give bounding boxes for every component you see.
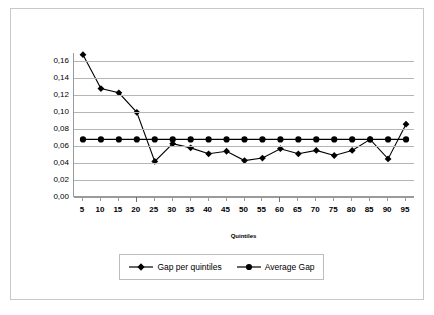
x-axis-tick: [136, 197, 137, 202]
circle-marker-icon: [236, 262, 262, 272]
x-axis-tick: [190, 197, 191, 201]
x-axis-tick: [369, 197, 370, 201]
x-axis-tick-label: 80: [347, 205, 356, 215]
chart-legend: Gap per quintiles Average Gap: [119, 254, 324, 280]
data-point-circle: [80, 136, 86, 142]
plot-area: [73, 53, 414, 197]
x-axis-tick-label: 45: [221, 205, 230, 215]
x-axis-tick: [100, 197, 101, 201]
x-axis-ticks: [73, 197, 414, 202]
data-point-diamond: [349, 147, 356, 154]
x-axis-tick-label: 25: [149, 205, 158, 215]
gridline: [74, 112, 414, 113]
gridline: [74, 95, 414, 96]
x-axis-tick: [244, 197, 245, 201]
gridline: [74, 78, 414, 79]
gridline: [74, 163, 414, 164]
chart-figure: 0,000,020,040,060,080,100,120,140,16 510…: [10, 8, 424, 300]
x-axis-tick-label: 15: [113, 205, 122, 215]
data-point-circle: [313, 136, 319, 142]
x-axis-tick-label: 75: [329, 205, 338, 215]
x-axis-tick-label: 60: [275, 205, 284, 215]
data-point-diamond: [205, 150, 212, 157]
x-axis-tick: [297, 197, 298, 201]
data-point-circle: [259, 136, 265, 142]
data-point-circle: [349, 136, 355, 142]
data-point-diamond: [313, 147, 320, 154]
x-axis-tick: [351, 197, 352, 201]
x-axis-tick-label: 50: [239, 205, 248, 215]
x-axis-tick: [82, 197, 83, 201]
data-point-circle: [403, 136, 409, 142]
gridline: [74, 129, 414, 130]
x-axis-tick: [333, 197, 334, 201]
x-axis-tick: [118, 197, 119, 201]
x-axis-tick: [226, 197, 227, 201]
legend-item-average-gap[interactable]: Average Gap: [236, 262, 315, 272]
data-point-diamond: [80, 51, 87, 58]
data-point-circle: [152, 136, 158, 142]
data-point-circle: [277, 136, 283, 142]
data-point-circle: [367, 136, 373, 142]
y-axis-tick-labels: 0,000,020,040,060,080,100,120,140,16: [31, 53, 69, 197]
data-point-circle: [188, 136, 194, 142]
data-point-circle: [295, 136, 301, 142]
series-layer: [74, 53, 415, 197]
gridline: [74, 146, 414, 147]
data-point-circle: [331, 136, 337, 142]
x-axis-tick-label: 10: [95, 205, 104, 215]
data-point-circle: [170, 136, 176, 142]
data-point-diamond: [295, 150, 302, 157]
x-axis-tick-label: 85: [365, 205, 374, 215]
x-axis-tick: [261, 197, 262, 201]
y-axis-tick-label: 0,02: [53, 176, 69, 184]
x-axis-tick-label: 95: [401, 205, 410, 215]
data-point-circle: [223, 136, 229, 142]
data-point-diamond: [223, 148, 230, 155]
x-axis-tick-labels: 5101520253035404550556065707580859095: [73, 205, 414, 219]
y-axis-tick-label: 0,04: [53, 159, 69, 167]
data-point-diamond: [259, 155, 266, 162]
x-axis-tick: [387, 197, 388, 201]
x-axis-tick-label: 30: [167, 205, 176, 215]
x-axis-title: Quintiles: [73, 233, 414, 239]
x-axis-tick-label: 20: [131, 205, 140, 215]
series-gap-per-quintiles: [80, 51, 410, 165]
y-axis-tick-label: 0,08: [53, 125, 69, 133]
y-axis-tick-label: 0,14: [53, 74, 69, 82]
x-axis-tick-label: 90: [383, 205, 392, 215]
data-point-circle: [134, 136, 140, 142]
x-axis-tick-label: 65: [293, 205, 302, 215]
x-axis-tick: [405, 197, 406, 201]
data-point-circle: [385, 136, 391, 142]
data-point-circle: [98, 136, 104, 142]
y-axis-tick-label: 0,06: [53, 142, 69, 150]
gridline: [74, 61, 414, 62]
x-axis-tick: [315, 197, 316, 201]
y-axis-tick-label: 0,16: [53, 57, 69, 65]
y-axis-tick-label: 0,10: [53, 108, 69, 116]
y-axis-tick-label: 0,00: [53, 193, 69, 201]
diamond-marker-icon: [128, 262, 154, 272]
data-point-circle: [206, 136, 212, 142]
data-point-diamond: [331, 152, 338, 159]
x-axis-tick-label: 70: [311, 205, 320, 215]
data-point-circle: [116, 136, 122, 142]
x-axis-tick: [154, 197, 155, 201]
gridline: [74, 180, 414, 181]
x-axis-tick-label: 55: [257, 205, 266, 215]
series-average-gap: [80, 136, 409, 142]
x-axis-tick: [208, 197, 209, 201]
x-axis-tick: [279, 197, 280, 202]
legend-label: Average Gap: [265, 262, 315, 272]
legend-label: Gap per quintiles: [157, 262, 221, 272]
x-axis-tick-label: 40: [203, 205, 212, 215]
legend-item-gap-per-quintiles[interactable]: Gap per quintiles: [128, 262, 221, 272]
data-point-circle: [241, 136, 247, 142]
x-axis-tick: [172, 197, 173, 201]
x-axis-tick-label: 5: [80, 205, 84, 215]
data-point-diamond: [403, 121, 410, 128]
y-axis-tick-label: 0,12: [53, 91, 69, 99]
x-axis-tick-label: 35: [185, 205, 194, 215]
data-point-diamond: [98, 85, 105, 92]
